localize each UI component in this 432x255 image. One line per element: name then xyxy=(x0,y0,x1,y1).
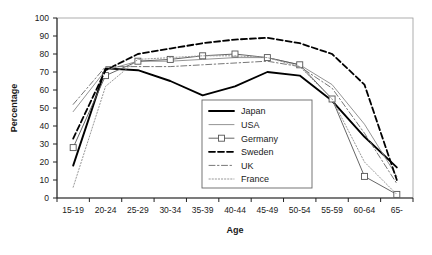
y-tick-label: 30 xyxy=(40,139,50,149)
y-tick-label: 10 xyxy=(40,175,50,185)
legend-label-germany: Germany xyxy=(241,134,279,144)
y-tick-label: 100 xyxy=(35,13,49,23)
y-axis-ticks: 0102030405060708090100 xyxy=(35,13,57,203)
x-tick-label: 35-39 xyxy=(192,205,214,215)
series-marker-germany xyxy=(394,191,400,197)
x-tick-label: 40-44 xyxy=(224,205,246,215)
chart-legend: JapanUSAGermanySwedenUKFrance xyxy=(202,100,312,188)
x-axis-title: Age xyxy=(226,225,243,235)
line-chart: 0102030405060708090100 15-1920-2425-2930… xyxy=(0,0,432,255)
x-tick-label: 60-64 xyxy=(354,205,376,215)
legend-label-usa: USA xyxy=(241,120,260,130)
y-tick-label: 60 xyxy=(40,85,50,95)
x-tick-label: 25-29 xyxy=(127,205,149,215)
legend-marker-germany xyxy=(219,135,225,141)
x-tick-label: 50-54 xyxy=(289,205,311,215)
y-tick-label: 70 xyxy=(40,67,50,77)
series-marker-germany xyxy=(70,145,76,151)
x-tick-label: 65- xyxy=(391,205,403,215)
x-tick-label: 45-49 xyxy=(256,205,278,215)
chart-container: 0102030405060708090100 15-1920-2425-2930… xyxy=(0,0,432,255)
x-axis-ticks: 15-1920-2425-2930-3435-3940-4445-4950-54… xyxy=(57,198,413,215)
y-tick-label: 50 xyxy=(40,103,50,113)
legend-label-sweden: Sweden xyxy=(241,147,274,157)
y-tick-label: 20 xyxy=(40,157,50,167)
y-tick-label: 90 xyxy=(40,31,50,41)
y-tick-label: 40 xyxy=(40,121,50,131)
x-tick-label: 55-59 xyxy=(321,205,343,215)
y-axis-title: Percentage xyxy=(9,84,19,133)
legend-label-france: France xyxy=(241,174,269,184)
x-tick-label: 20-24 xyxy=(95,205,117,215)
x-tick-label: 15-19 xyxy=(62,205,84,215)
series-marker-germany xyxy=(361,173,367,179)
legend-label-japan: Japan xyxy=(241,106,266,116)
y-tick-label: 80 xyxy=(40,49,50,59)
legend-label-uk: UK xyxy=(241,161,254,171)
y-tick-label: 0 xyxy=(44,193,49,203)
x-tick-label: 30-34 xyxy=(159,205,181,215)
